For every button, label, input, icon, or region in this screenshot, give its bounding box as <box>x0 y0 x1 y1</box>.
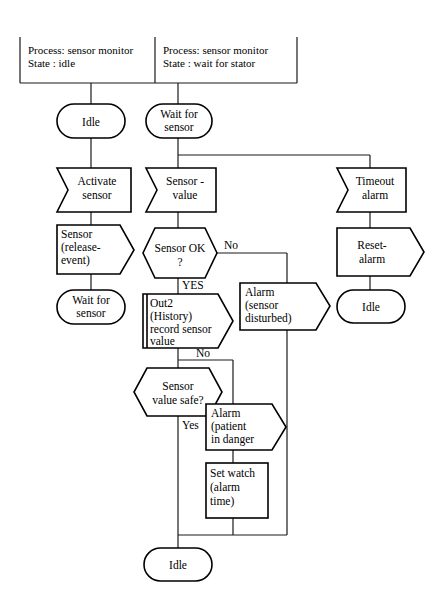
state-idle-right-label: Idle <box>362 301 380 313</box>
node-state-idle-bottom[interactable]: Idle <box>144 548 212 581</box>
output-sensor-release-line1: Sensor <box>61 228 92 240</box>
decision-sensor-ok-line2: ? <box>177 256 182 268</box>
input-timeout-alarm-line1: Timeout <box>356 175 395 187</box>
label-value-safe-yes: Yes <box>182 419 199 431</box>
node-output-reset-alarm[interactable]: Reset- alarm <box>337 228 424 276</box>
output-out2-history-line4: value <box>150 335 175 347</box>
node-output-alarm-sensor-disturbed[interactable]: Alarm (sensor disturbed) <box>240 283 330 330</box>
decision-sensor-ok-line1: Sensor OK <box>155 242 206 254</box>
input-sensor-value-line1: Sensor - <box>166 175 204 187</box>
input-timeout-alarm-line2: alarm <box>362 189 388 201</box>
output-out2-history-line1: Out2 <box>150 297 173 309</box>
state-idle-left-label: Idle <box>82 116 100 128</box>
output-sensor-release-line3: event) <box>61 254 90 267</box>
flowchart-svg: Process: sensor monitor State : idle Pro… <box>0 0 446 595</box>
output-sensor-release-line2: (release- <box>61 241 101 254</box>
label-sensor-ok-yes: YES <box>182 279 204 291</box>
input-activate-sensor-line2: sensor <box>82 189 112 201</box>
input-sensor-value-line2: value <box>173 189 198 201</box>
output-reset-alarm-line1: Reset- <box>357 239 387 251</box>
output-alarm-sensor-disturbed-line3: disturbed) <box>245 312 292 325</box>
output-reset-alarm-shape <box>337 228 424 276</box>
header-left-line1: Process: sensor monitor <box>28 44 133 56</box>
diagram-canvas: Process: sensor monitor State : idle Pro… <box>0 0 446 595</box>
header-left-text: Process: sensor monitor State : idle <box>28 44 133 69</box>
node-output-sensor-release[interactable]: Sensor (release- event) <box>57 225 134 274</box>
header-right-line1: Process: sensor monitor <box>163 44 268 56</box>
output-reset-alarm-line2: alarm <box>359 253 385 265</box>
node-task-set-watch[interactable]: Set watch (alarm time) <box>206 463 268 518</box>
node-input-activate-sensor[interactable]: Activate sensor <box>57 168 131 212</box>
output-alarm-patient-danger-line2: (patient <box>211 420 247 433</box>
output-out2-history-line2: (History) <box>150 310 192 323</box>
header-right-text: Process: sensor monitor State : wait for… <box>163 44 268 69</box>
state-wait-for-sensor-line2: sensor <box>164 121 194 133</box>
output-alarm-sensor-disturbed-line2: (sensor <box>245 299 278 312</box>
decision-sensor-value-safe-line1: Sensor <box>162 380 193 392</box>
input-activate-sensor-line1: Activate <box>78 175 117 187</box>
decision-sensor-value-safe-line2: value safe? <box>152 394 203 406</box>
output-alarm-sensor-disturbed-line1: Alarm <box>245 286 274 298</box>
label-sensor-ok-no: No <box>224 239 238 251</box>
node-output-out2-history[interactable]: Out2 (History) record sensor value <box>143 294 233 348</box>
node-output-alarm-patient-danger[interactable]: Alarm (patient in danger <box>206 404 286 450</box>
state-idle-bottom-label: Idle <box>169 559 187 571</box>
task-set-watch-line3: time) <box>210 495 234 508</box>
header-right-line2: State : wait for stator <box>163 57 256 69</box>
header-left-line2: State : idle <box>28 57 75 69</box>
node-state-wait-for-sensor[interactable]: Wait for sensor <box>146 104 212 138</box>
output-out2-history-line3: record sensor <box>150 323 212 335</box>
node-input-sensor-value[interactable]: Sensor - value <box>146 168 216 212</box>
task-set-watch-line2: (alarm <box>210 481 240 494</box>
state-wait-for-sensor-2-line2: sensor <box>76 307 106 319</box>
state-wait-for-sensor-2-line1: Wait for <box>72 294 110 306</box>
task-set-watch-line1: Set watch <box>210 467 255 479</box>
label-value-safe-no: No <box>196 347 210 359</box>
output-alarm-patient-danger-line3: in danger <box>211 433 254 446</box>
node-state-wait-for-sensor-2[interactable]: Wait for sensor <box>57 290 125 324</box>
node-state-idle-right[interactable]: Idle <box>337 290 405 323</box>
output-alarm-patient-danger-line1: Alarm <box>211 407 240 419</box>
state-wait-for-sensor-line1: Wait for <box>160 108 198 120</box>
node-state-idle-left[interactable]: Idle <box>57 104 125 138</box>
node-decision-sensor-ok[interactable]: Sensor OK ? <box>143 228 217 278</box>
node-input-timeout-alarm[interactable]: Timeout alarm <box>337 168 406 212</box>
